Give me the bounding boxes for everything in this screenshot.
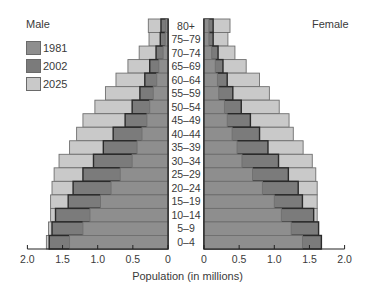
age-group-label: 10–14 — [168, 209, 204, 221]
bar-female-1981 — [204, 33, 209, 47]
tick-label-female: 0 — [201, 253, 207, 265]
age-group-label: 0–4 — [168, 236, 204, 248]
tick-label-male: 2.0 — [20, 253, 35, 265]
age-group-label: 5–9 — [168, 222, 204, 234]
bar-male-1981 — [132, 154, 168, 168]
bar-male-1981 — [157, 73, 168, 87]
tick-label-female: 0.5 — [232, 253, 247, 265]
tick-label-male: 0.5 — [126, 253, 141, 265]
age-group-label: 55–59 — [168, 87, 204, 99]
age-group-label: 80+ — [168, 20, 204, 32]
age-group-label: 40–44 — [168, 128, 204, 140]
bar-female-1981 — [204, 154, 242, 168]
bar-female-1981 — [204, 195, 274, 209]
age-group-label: 75–79 — [168, 33, 204, 45]
female-title: Female — [312, 18, 349, 30]
bar-male-1981 — [101, 195, 168, 209]
bar-male-1981 — [90, 208, 168, 222]
bar-female-1981 — [204, 46, 212, 60]
bar-female-1981 — [204, 19, 209, 33]
bar-female-1981 — [204, 60, 215, 74]
bar-female-1981 — [204, 168, 253, 182]
legend-label-2002: 2002 — [43, 60, 67, 72]
age-group-label: 70–74 — [168, 47, 204, 59]
tick-label-male: 1.0 — [90, 253, 105, 265]
bar-female-1981 — [204, 141, 237, 155]
age-group-label: 35–39 — [168, 141, 204, 153]
bar-female-1981 — [204, 87, 219, 101]
bar-female-1981 — [204, 222, 291, 236]
legend-swatch-1981 — [26, 41, 41, 55]
bar-male-1981 — [137, 141, 168, 155]
bar-male-1981 — [70, 235, 168, 249]
tick-label-female: 1.5 — [302, 253, 317, 265]
age-group-label: 50–54 — [168, 101, 204, 113]
tick-label-male: 0 — [165, 253, 171, 265]
bar-female-1981 — [204, 208, 281, 222]
x-axis-title: Population (in millions) — [0, 270, 371, 282]
age-group-label: 30–34 — [168, 155, 204, 167]
bar-female-1981 — [204, 235, 302, 249]
age-group-label: 20–24 — [168, 182, 204, 194]
legend-swatch-2025 — [26, 77, 41, 91]
bar-male-1981 — [159, 60, 168, 74]
bar-male-1981 — [83, 222, 168, 236]
bar-female-1981 — [204, 73, 217, 87]
age-group-label: 65–69 — [168, 60, 204, 72]
male-title: Male — [26, 18, 50, 30]
age-group-label: 25–29 — [168, 168, 204, 180]
bar-female-1981 — [204, 181, 262, 195]
bar-female-1981 — [204, 100, 224, 114]
bar-male-1981 — [111, 181, 168, 195]
bar-male-1981 — [153, 87, 168, 101]
legend-label-2025: 2025 — [43, 78, 67, 90]
tick-label-female: 2.0 — [337, 253, 352, 265]
bar-male-1981 — [150, 100, 168, 114]
age-group-label: 45–49 — [168, 114, 204, 126]
legend-label-1981: 1981 — [43, 42, 67, 54]
tick-label-female: 1.0 — [267, 253, 282, 265]
bar-male-1981 — [120, 168, 168, 182]
tick-label-male: 1.5 — [55, 253, 70, 265]
age-group-label: 60–64 — [168, 74, 204, 86]
bar-male-1981 — [147, 114, 168, 128]
bar-female-1981 — [204, 127, 232, 141]
bar-female-1981 — [204, 114, 227, 128]
bar-male-1981 — [142, 127, 168, 141]
age-group-label: 15–19 — [168, 195, 204, 207]
legend-swatch-2002 — [26, 59, 41, 73]
